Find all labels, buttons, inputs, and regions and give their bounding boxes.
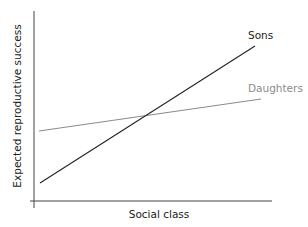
daughters-label: Daughters [248, 82, 303, 94]
chart-svg: Sons Daughters Social class Expected rep… [0, 0, 308, 227]
chart: Sons Daughters Social class Expected rep… [0, 0, 308, 227]
sons-line [40, 46, 255, 183]
y-axis-label: Expected reproductive success [11, 24, 23, 187]
sons-label: Sons [248, 29, 273, 41]
x-axis-label: Social class [129, 208, 190, 220]
daughters-line [39, 99, 261, 131]
